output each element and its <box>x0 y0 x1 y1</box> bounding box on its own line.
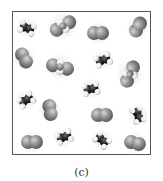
molecule-diatomic <box>20 130 44 154</box>
molecule-chloro-large <box>45 8 82 45</box>
molecule-ethylene <box>124 101 152 129</box>
molecule-diatomic <box>36 96 64 124</box>
molecule-ethylene <box>11 85 41 115</box>
molecule-diatomic <box>86 21 110 45</box>
molecule-diatomic <box>8 42 41 75</box>
molecule-ethylene <box>87 125 118 156</box>
molecule-diatomic <box>90 103 114 127</box>
molecule-ethylene <box>78 76 103 101</box>
molecule-diatomic <box>120 128 149 157</box>
molecule-ethylene <box>50 123 78 151</box>
molecule-diatomic <box>122 11 155 44</box>
molecule-box-figure: (c) <box>0 0 163 181</box>
molecule-chloro-large <box>109 53 151 95</box>
molecule-chloro-large <box>40 47 81 88</box>
molecules-layer <box>0 0 163 181</box>
molecule-ethylene <box>89 46 117 74</box>
molecule-ethylene <box>13 14 41 42</box>
figure-caption: (c) <box>0 166 163 179</box>
